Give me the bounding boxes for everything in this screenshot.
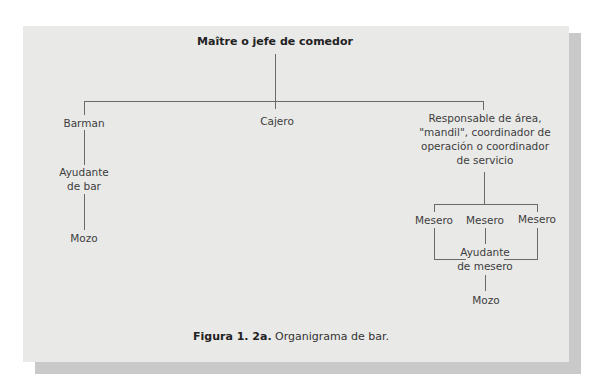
connector-ayudante-mozo	[84, 194, 85, 230]
node-cajero: Cajero	[260, 114, 294, 128]
node-mozo-bar: Mozo	[70, 231, 97, 245]
connector-meseros-horizontal	[434, 204, 538, 205]
responsable-line2: "mandil", coordinador de	[419, 125, 550, 139]
connector-mesero-3	[537, 204, 538, 212]
caption-label: Figura 1. 2a.	[193, 330, 272, 343]
node-mozo-mesero: Mozo	[472, 293, 499, 307]
responsable-line1: Responsable de área,	[419, 111, 550, 125]
connector-main-horizontal	[84, 101, 484, 102]
connector-mesero3-down	[537, 228, 538, 259]
responsable-line4: de servicio	[419, 153, 550, 167]
connector-root-down	[275, 54, 276, 102]
node-mesero-1: Mesero	[415, 213, 453, 227]
caption-text: Organigrama de bar.	[272, 330, 389, 343]
node-mesero-2: Mesero	[466, 213, 504, 227]
connector-ayudante-mesero-mozo	[485, 275, 486, 291]
connector-mesero2-ayudante	[485, 228, 486, 244]
connector-cajero	[275, 101, 276, 109]
connector-barman	[84, 101, 85, 115]
connector-responsable-meseros	[484, 172, 485, 205]
node-ayudante-mesero: Ayudante de mesero	[457, 245, 513, 273]
ayudante-mesero-line2: de mesero	[457, 259, 513, 273]
ayudante-bar-line2: de bar	[59, 179, 109, 193]
ayudante-mesero-line1: Ayudante	[457, 245, 513, 259]
node-ayudante-bar: Ayudante de bar	[59, 165, 109, 193]
figure-caption: Figura 1. 2a. Organigrama de bar.	[193, 330, 389, 343]
connector-barman-ayudante	[84, 130, 85, 165]
node-responsable: Responsable de área, "mandil", coordinad…	[419, 111, 550, 167]
connector-mesero-1	[434, 204, 435, 212]
connector-responsable	[483, 101, 484, 110]
node-mesero-3: Mesero	[518, 212, 556, 226]
figure-card	[23, 26, 569, 362]
node-maitre: Maître o jefe de comedor	[197, 35, 353, 49]
connector-mesero1-down	[434, 228, 435, 259]
ayudante-bar-line1: Ayudante	[59, 165, 109, 179]
responsable-line3: operación o coordinador	[419, 139, 550, 153]
node-barman: Barman	[63, 116, 104, 130]
